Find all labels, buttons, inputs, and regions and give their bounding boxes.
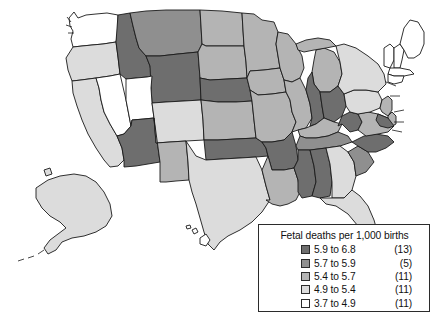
legend-row: 5.9 to 6.8 (13) bbox=[265, 243, 424, 256]
legend-range-3: 5.4 to 5.7 bbox=[314, 271, 355, 282]
legend-count-4: (11) bbox=[395, 284, 424, 295]
state-hi-2 bbox=[192, 228, 198, 234]
legend-range-2: 5.7 to 5.9 bbox=[314, 258, 355, 269]
state-mn bbox=[242, 13, 280, 78]
legend-range-5: 3.7 to 4.9 bbox=[314, 298, 355, 309]
state-ok bbox=[204, 138, 268, 160]
legend-swatch-3 bbox=[301, 272, 310, 281]
legend-row: 4.9 to 5.4 (11) bbox=[265, 283, 424, 296]
legend-title: Fetal deaths per 1,000 births bbox=[265, 229, 424, 242]
state-nd bbox=[200, 10, 244, 46]
legend-range-4: 4.9 to 5.4 bbox=[314, 284, 355, 295]
legend-row: 5.4 to 5.7 (11) bbox=[265, 270, 424, 283]
state-vt bbox=[384, 44, 394, 68]
choropleth-figure: Fetal deaths per 1,000 births 5.9 to 6.8… bbox=[0, 0, 436, 318]
legend-swatch-5 bbox=[301, 299, 310, 308]
ak-island-1 bbox=[44, 168, 52, 176]
state-or bbox=[66, 42, 120, 81]
state-hi-3 bbox=[186, 225, 191, 229]
state-co bbox=[152, 100, 204, 143]
legend-swatch-2 bbox=[301, 259, 310, 268]
legend-count-5: (11) bbox=[395, 298, 424, 309]
map-legend: Fetal deaths per 1,000 births 5.9 to 6.8… bbox=[258, 224, 430, 312]
state-ks bbox=[201, 100, 256, 140]
state-mt bbox=[130, 10, 202, 56]
state-ak bbox=[36, 174, 112, 254]
state-pa bbox=[344, 90, 382, 114]
aleutian-islands bbox=[18, 250, 44, 261]
state-ia bbox=[247, 68, 286, 95]
legend-swatch-4 bbox=[301, 285, 310, 294]
legend-range-1: 5.9 to 6.8 bbox=[314, 244, 355, 255]
state-sd bbox=[198, 44, 247, 80]
state-ne bbox=[200, 78, 252, 102]
state-mi bbox=[312, 48, 342, 92]
state-wa bbox=[69, 12, 118, 47]
legend-count-3: (11) bbox=[395, 271, 424, 282]
legend-row: 5.7 to 5.9 (5) bbox=[265, 256, 424, 269]
legend-count-2: (5) bbox=[400, 258, 424, 269]
legend-row: 3.7 to 4.9 (11) bbox=[265, 297, 424, 310]
state-ma bbox=[388, 68, 414, 76]
legend-count-1: (13) bbox=[394, 244, 424, 255]
state-ny bbox=[336, 44, 386, 94]
state-wy bbox=[146, 52, 201, 103]
state-mi-up bbox=[296, 38, 336, 52]
legend-swatch-1 bbox=[301, 245, 310, 254]
